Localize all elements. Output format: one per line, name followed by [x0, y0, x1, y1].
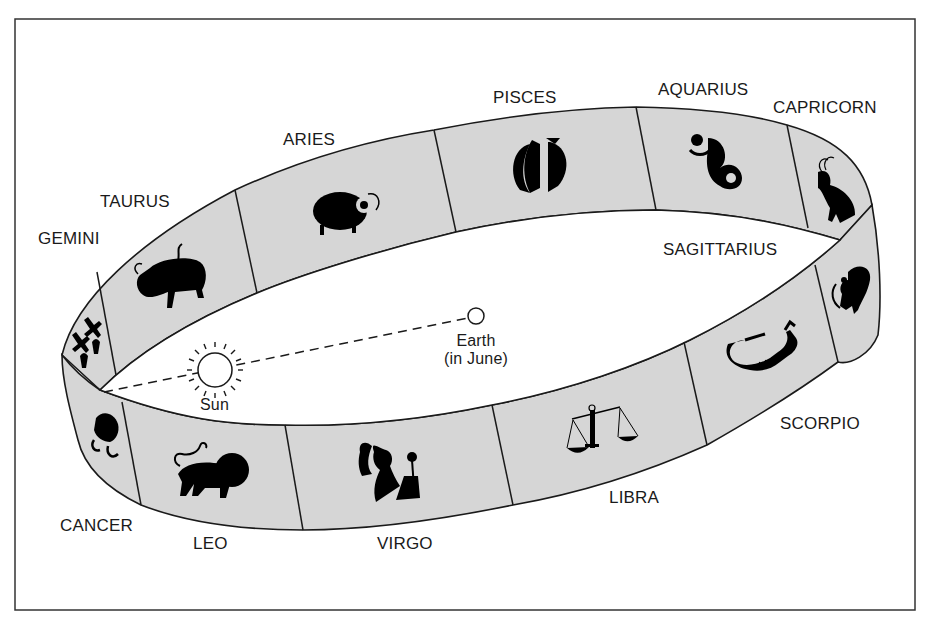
sign-label-pisces: PISCES	[493, 88, 557, 108]
sign-label-scorpio: SCORPIO	[780, 414, 860, 434]
sun-label: Sun	[200, 396, 229, 414]
sign-label-cancer: CANCER	[60, 516, 133, 536]
zodiac-diagram	[0, 0, 929, 624]
earth-label: Earth (in June)	[436, 332, 516, 368]
sign-label-taurus: TAURUS	[100, 192, 170, 212]
sign-label-sagittarius: SAGITTARIUS	[663, 240, 777, 260]
sign-label-libra: LIBRA	[609, 488, 659, 508]
earth-label-line1: Earth	[436, 332, 516, 350]
sign-label-aquarius: AQUARIUS	[658, 80, 748, 100]
sign-label-virgo: VIRGO	[377, 534, 433, 554]
earth-label-line2: (in June)	[436, 350, 516, 368]
earth-icon	[468, 308, 484, 324]
sign-label-leo: LEO	[193, 534, 228, 554]
sign-label-aries: ARIES	[283, 130, 335, 150]
sign-label-gemini: GEMINI	[38, 229, 100, 249]
sign-label-capricorn: CAPRICORN	[773, 98, 877, 118]
